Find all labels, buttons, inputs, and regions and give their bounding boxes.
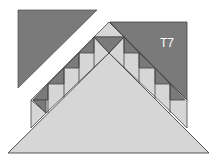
tangram-diagram: T7 [0, 0, 215, 158]
label-t7: T7 [160, 36, 174, 50]
